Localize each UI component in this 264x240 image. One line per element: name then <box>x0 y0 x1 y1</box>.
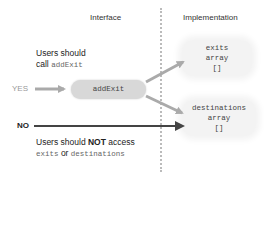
code-exits: exits <box>36 150 59 158</box>
addexit-to-exits-arrow <box>146 62 183 82</box>
no-note-line2: exits or destinations <box>36 148 135 160</box>
addexit-to-destinations-arrow <box>146 96 182 113</box>
yes-label: YES <box>12 84 28 93</box>
code-destinations: destinations <box>71 150 125 158</box>
addexit-label: addExit <box>71 80 146 99</box>
addexit-method-box: addExit <box>71 80 146 99</box>
no-note-line1: Users should NOT access <box>36 137 135 148</box>
no-label: NO <box>17 121 29 130</box>
not-emphasis: NOT <box>88 137 106 147</box>
no-note: Users should NOT access exits or destina… <box>36 137 135 160</box>
